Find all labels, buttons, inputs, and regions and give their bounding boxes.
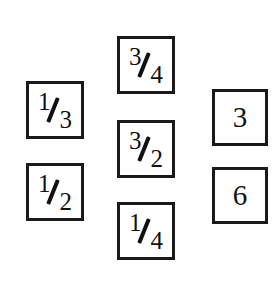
card-three[interactable]: 3 xyxy=(212,89,268,146)
fraction-denominator: 4 xyxy=(151,228,164,253)
fraction-numerator: 3 xyxy=(129,44,142,69)
whole-number-value: 3 xyxy=(233,103,248,132)
fraction-one-quarter: 1 4 xyxy=(129,211,163,251)
fraction-three-quarters: 3 4 xyxy=(129,45,163,85)
fraction-one-third: 1 3 xyxy=(38,90,72,130)
fraction-denominator: 3 xyxy=(60,107,73,132)
fraction-one-half: 1 2 xyxy=(38,172,72,212)
card-one-quarter[interactable]: 1 4 xyxy=(117,202,175,260)
fraction-numerator: 1 xyxy=(38,89,51,114)
fraction-numerator: 3 xyxy=(129,128,142,153)
number-card-board: 1 3 1 2 3 4 3 2 1 4 3 xyxy=(0,0,279,286)
fraction-denominator: 2 xyxy=(151,146,164,171)
fraction-numerator: 1 xyxy=(129,210,142,235)
card-one-third[interactable]: 1 3 xyxy=(26,81,84,139)
fraction-three-halves: 3 2 xyxy=(129,129,163,169)
whole-number-value: 6 xyxy=(233,181,248,210)
card-three-quarters[interactable]: 3 4 xyxy=(117,36,175,94)
fraction-denominator: 2 xyxy=(60,189,73,214)
card-three-halves[interactable]: 3 2 xyxy=(117,120,175,178)
fraction-numerator: 1 xyxy=(38,171,51,196)
fraction-denominator: 4 xyxy=(151,62,164,87)
card-one-half[interactable]: 1 2 xyxy=(26,163,84,221)
card-six[interactable]: 6 xyxy=(212,167,268,224)
